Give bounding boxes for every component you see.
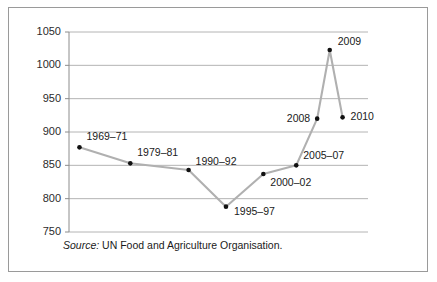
data-point-label: 2010 [351, 110, 375, 122]
y-axis-tick-label: 850 [43, 158, 61, 170]
data-point-label: 2005–07 [303, 149, 344, 161]
source-text: UN Food and Agriculture Organisation. [102, 239, 282, 251]
data-point-label: 1995–97 [234, 205, 275, 217]
data-point [186, 168, 191, 173]
data-point-label: 1969–71 [86, 130, 127, 142]
y-axis-ticks [65, 32, 69, 232]
source-label: Source: [63, 239, 99, 251]
y-axis-tick-label: 950 [43, 92, 61, 104]
data-point-label: 2008 [287, 112, 311, 124]
data-point [327, 48, 332, 53]
y-axis-tick-label: 800 [43, 192, 61, 204]
data-point-labels: 1969–711979–811990–921995–972000–022005–… [86, 35, 374, 218]
data-point-label: 2000–02 [270, 176, 311, 188]
y-axis-tick-labels: 75080085090095010001050 [37, 25, 61, 237]
y-axis-tick-label: 750 [43, 225, 61, 237]
y-axis-tick-label: 900 [43, 125, 61, 137]
data-point-label: 2009 [338, 35, 362, 47]
data-point [224, 204, 229, 209]
data-point [340, 115, 345, 120]
source-note: Source: UN Food and Agriculture Organisa… [63, 239, 282, 251]
data-point [77, 145, 82, 150]
y-axis-tick-label: 1050 [37, 25, 61, 37]
data-point [261, 172, 266, 177]
data-point [315, 116, 320, 121]
data-point-label: 1990–92 [196, 155, 237, 167]
y-axis-tick-label: 1000 [37, 58, 61, 70]
data-point [294, 163, 299, 168]
chart-figure: 75080085090095010001050 1969–711979–8119… [0, 0, 437, 282]
data-point [128, 161, 133, 166]
data-point-label: 1979–81 [137, 146, 178, 158]
